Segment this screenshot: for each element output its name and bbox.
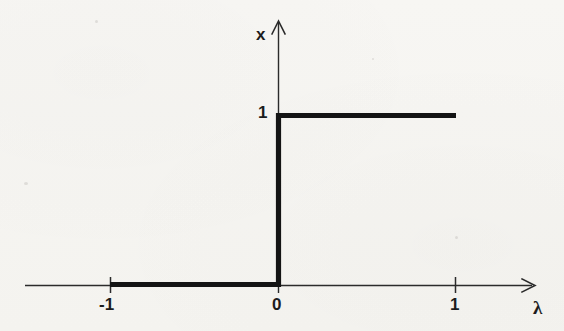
plot-svg <box>0 0 564 331</box>
x-axis-label: λ <box>533 298 542 317</box>
y-axis-label: x <box>256 26 265 43</box>
step-function-curve <box>110 116 456 285</box>
y-tick-label-1: 1 <box>258 104 267 121</box>
x-tick-label-minus-1: -1 <box>99 296 114 313</box>
x-tick-label-0: 0 <box>272 296 281 313</box>
figure-canvas: x 1 -1 0 1 λ <box>0 0 564 331</box>
x-tick-label-1: 1 <box>450 296 459 313</box>
